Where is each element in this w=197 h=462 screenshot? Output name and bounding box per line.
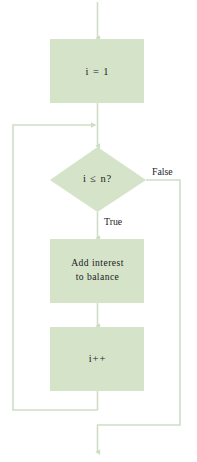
flowchart-canvas: i = 1 i ≤ n? Add interest to balance i++… xyxy=(0,0,197,462)
node-body: Add interest to balance xyxy=(50,239,144,303)
node-increment: i++ xyxy=(50,327,144,391)
node-increment-label: i++ xyxy=(89,353,106,364)
flowchart-diagram: i = 1 i ≤ n? Add interest to balance i++… xyxy=(0,0,197,462)
node-init: i = 1 xyxy=(50,39,144,103)
node-condition-label: i ≤ n? xyxy=(83,173,112,184)
edge-label-false: False xyxy=(152,166,173,177)
edge-label-true: True xyxy=(104,216,123,227)
node-init-label: i = 1 xyxy=(86,66,110,77)
node-condition: i ≤ n? xyxy=(50,147,146,212)
node-body-label-line-2: to balance xyxy=(76,271,120,282)
node-body-label-line-1: Add interest xyxy=(71,257,124,268)
